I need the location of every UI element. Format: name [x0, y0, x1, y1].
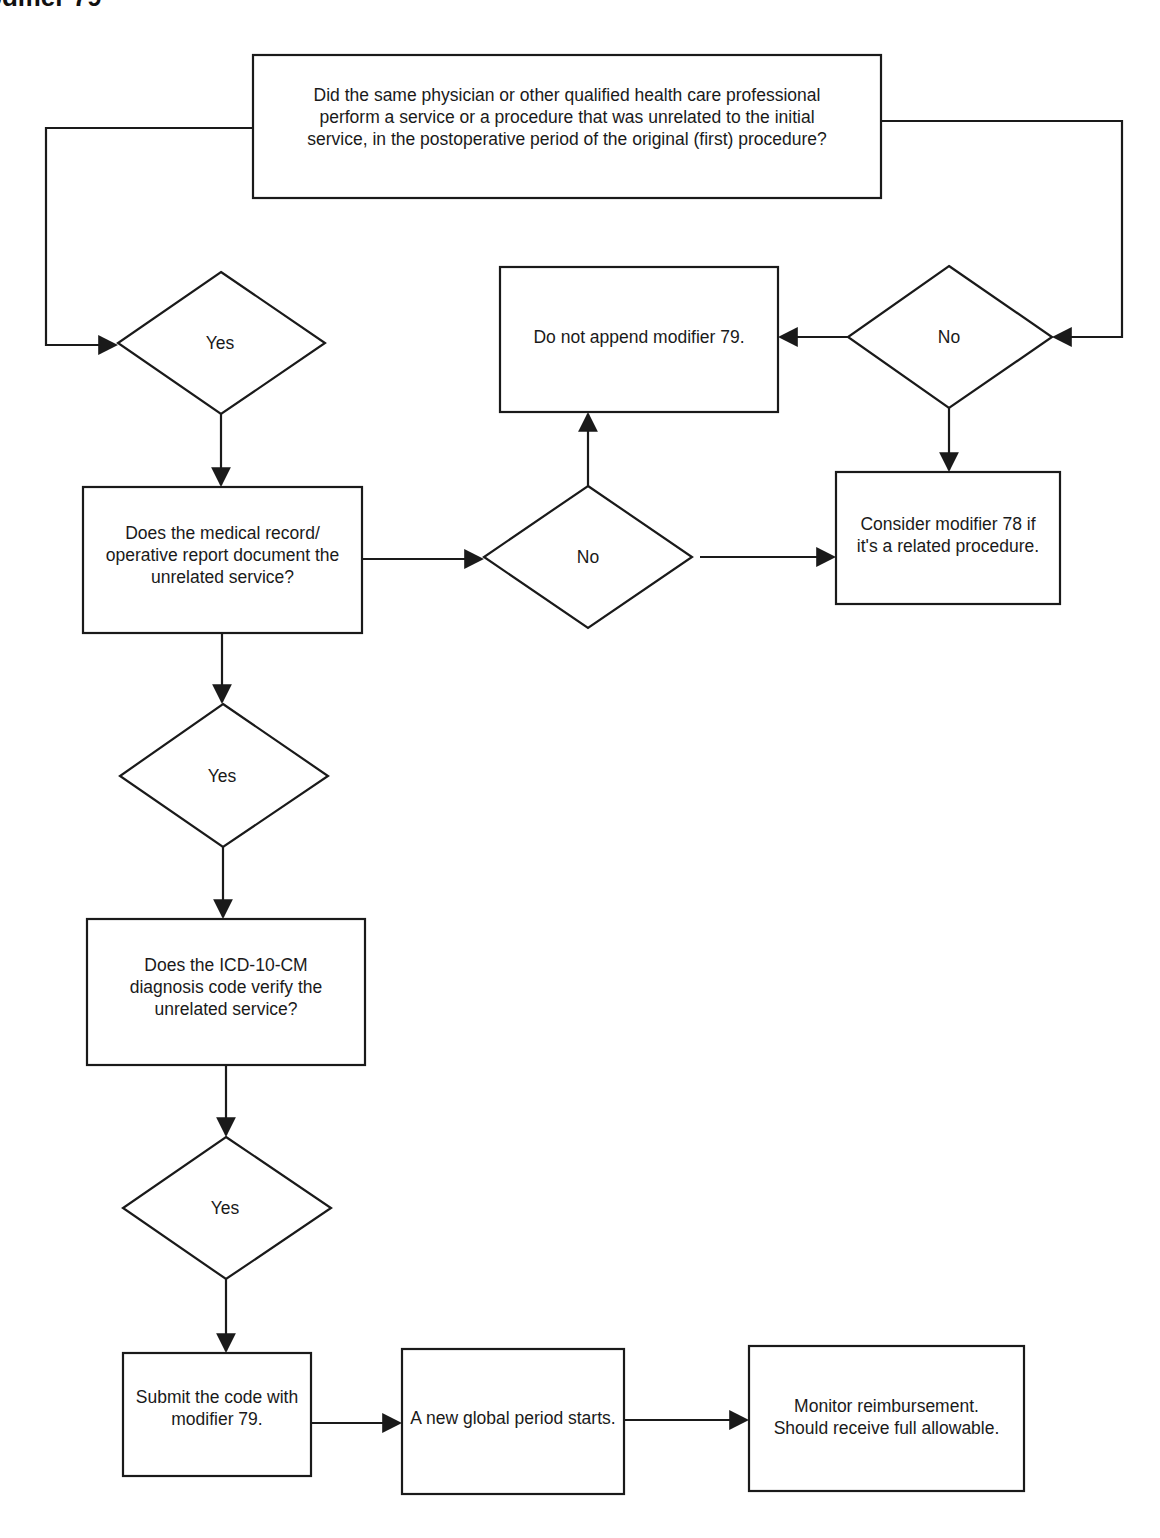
decision-no-1-label: No [938, 327, 960, 348]
decision-yes-1-label: Yes [206, 333, 235, 354]
start-question-line-1: Did the same physician or other qualifie… [307, 84, 826, 106]
decision-no-2-label: No [577, 547, 599, 568]
record-question-node: Does the medical record/ operative repor… [83, 487, 362, 633]
record-question-line-2: operative report document the [106, 544, 339, 566]
monitor-node: Monitor reimbursement. Should receive fu… [749, 1346, 1024, 1491]
submit-code-node: Submit the code with modifier 79. [123, 1353, 311, 1476]
icd-question-line-2: diagnosis code verify the [130, 976, 323, 998]
consider-78-node: Consider modifier 78 if it's a related p… [836, 472, 1060, 604]
edge-start-to-no1 [881, 121, 1122, 337]
record-question-line-3: unrelated service? [106, 566, 339, 588]
icd-question-line-1: Does the ICD-10-CM [130, 954, 323, 976]
start-question-node: Did the same physician or other qualifie… [253, 55, 881, 198]
consider-78-line-1: Consider modifier 78 if [857, 513, 1039, 535]
submit-code-line-1: Submit the code with [136, 1386, 298, 1408]
submit-code-line-2: modifier 79. [136, 1408, 298, 1430]
consider-78-line-2: it's a related procedure. [857, 535, 1039, 557]
start-question-line-3: service, in the postoperative period of … [307, 128, 826, 150]
monitor-line-2: Should receive full allowable. [774, 1417, 1000, 1439]
decision-yes-2-label: Yes [208, 766, 237, 787]
do-not-append-text: Do not append modifier 79. [533, 326, 744, 348]
monitor-line-1: Monitor reimbursement. [774, 1395, 1000, 1417]
record-question-line-1: Does the medical record/ [106, 522, 339, 544]
icd-question-node: Does the ICD-10-CM diagnosis code verify… [87, 919, 365, 1065]
do-not-append-node: Do not append modifier 79. [500, 267, 778, 412]
icd-question-line-3: unrelated service? [130, 998, 323, 1020]
edge-start-to-yes1 [46, 128, 253, 345]
new-global-period-text: A new global period starts. [410, 1407, 615, 1429]
decision-yes-3-label: Yes [211, 1198, 240, 1219]
start-question-line-2: perform a service or a procedure that wa… [307, 106, 826, 128]
flowchart-canvas [0, 0, 1160, 1538]
new-global-period-node: A new global period starts. [402, 1349, 624, 1494]
